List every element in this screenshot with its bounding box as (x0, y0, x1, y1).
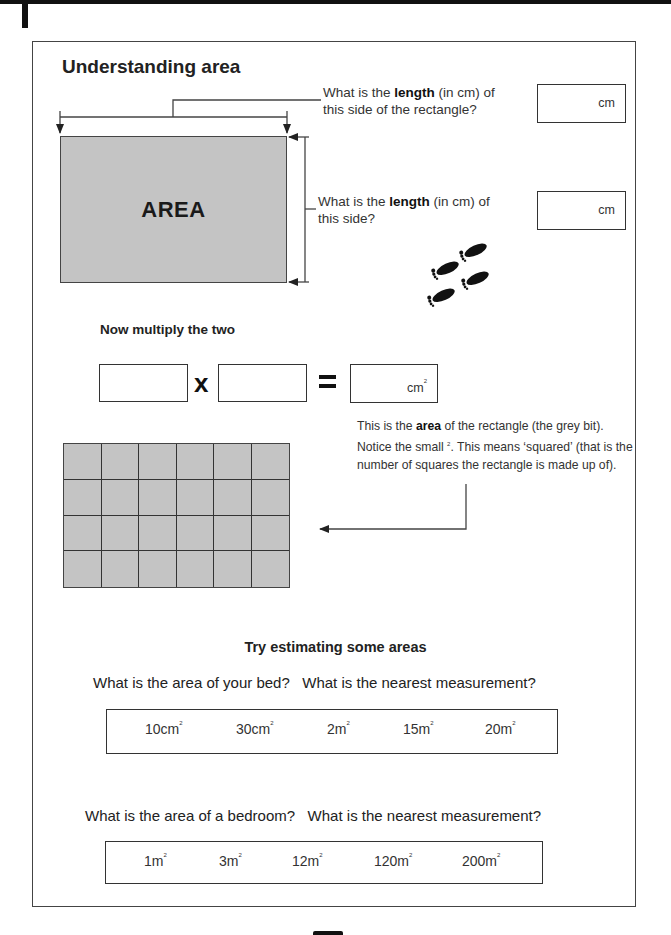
grid-square (139, 444, 177, 480)
option-200m2[interactable]: 200m2 (462, 852, 500, 869)
bedroom-area-question: What is the area of a bedroom? What is t… (85, 807, 541, 824)
grid-square (177, 551, 215, 587)
equals-symbol (319, 375, 336, 389)
grid-square (252, 551, 290, 587)
note-bold-word: area (416, 419, 441, 433)
option-exponent: 2 (163, 852, 166, 858)
bed-area-question: What is the area of your bed? What is th… (93, 674, 536, 691)
grid-square (252, 516, 290, 552)
option-value: 1m (144, 853, 163, 869)
option-1m2[interactable]: 1m2 (144, 852, 167, 869)
bottom-tab-marker (313, 931, 343, 935)
grid-square (214, 444, 252, 480)
option-exponent: 2 (179, 720, 182, 726)
note-text: of the rectangle (the grey bit). (441, 419, 604, 433)
option-exponent: 2 (409, 852, 412, 858)
grid-square (252, 444, 290, 480)
squares-grid (63, 443, 290, 588)
option-value: 12m (292, 853, 319, 869)
option-value: 10cm (145, 721, 179, 737)
grid-square (177, 480, 215, 516)
area-result-box[interactable]: cm2 (350, 364, 438, 403)
grid-square (102, 480, 140, 516)
area-explanation-note: This is the area of the rectangle (the g… (357, 417, 642, 474)
grid-square (214, 516, 252, 552)
grid-square (252, 480, 290, 516)
option-exponent: 2 (497, 852, 500, 858)
grid-square (64, 480, 102, 516)
option-exponent: 2 (270, 720, 273, 726)
option-exponent: 2 (430, 720, 433, 726)
grid-square (139, 551, 177, 587)
bed-area-options: 10cm2 30cm2 2m2 15m2 20m2 (106, 709, 558, 754)
grid-square (214, 551, 252, 587)
grid-square (102, 444, 140, 480)
grid-square (102, 516, 140, 552)
option-15m2[interactable]: 15m2 (403, 720, 434, 737)
estimating-heading: Try estimating some areas (0, 639, 671, 655)
grid-square (64, 516, 102, 552)
note-text: This is the (357, 419, 416, 433)
multiply-heading: Now multiply the two (100, 322, 235, 337)
multiplicand-box-2[interactable] (218, 364, 307, 402)
option-exponent: 2 (512, 720, 515, 726)
grid-square (139, 480, 177, 516)
grid-square (214, 480, 252, 516)
grid-square (177, 444, 215, 480)
option-30cm2[interactable]: 30cm2 (236, 720, 274, 737)
option-value: 3m (219, 853, 238, 869)
unit-text: cm (407, 381, 424, 395)
option-exponent: 2 (346, 720, 349, 726)
grid-square (64, 551, 102, 587)
option-2m2[interactable]: 2m2 (327, 720, 350, 737)
unit-exponent: 2 (424, 378, 427, 384)
grid-square (102, 551, 140, 587)
option-value: 20m (485, 721, 512, 737)
option-value: 30cm (236, 721, 270, 737)
option-value: 120m (374, 853, 409, 869)
option-exponent: 2 (238, 852, 241, 858)
times-symbol: x (194, 368, 208, 399)
option-value: 2m (327, 721, 346, 737)
option-20m2[interactable]: 20m2 (485, 720, 516, 737)
option-10cm2[interactable]: 10cm2 (145, 720, 183, 737)
grid-square (177, 516, 215, 552)
option-value: 200m (462, 853, 497, 869)
option-12m2[interactable]: 12m2 (292, 852, 323, 869)
note-text: Notice the small (357, 440, 447, 454)
option-value: 15m (403, 721, 430, 737)
multiplicand-box-1[interactable] (99, 364, 188, 402)
option-3m2[interactable]: 3m2 (219, 852, 242, 869)
grid-square (139, 516, 177, 552)
option-exponent: 2 (319, 852, 322, 858)
option-120m2[interactable]: 120m2 (374, 852, 412, 869)
grid-square (64, 444, 102, 480)
bedroom-area-options: 1m2 3m2 12m2 120m2 200m2 (105, 841, 543, 884)
unit-label: cm2 (407, 378, 427, 395)
